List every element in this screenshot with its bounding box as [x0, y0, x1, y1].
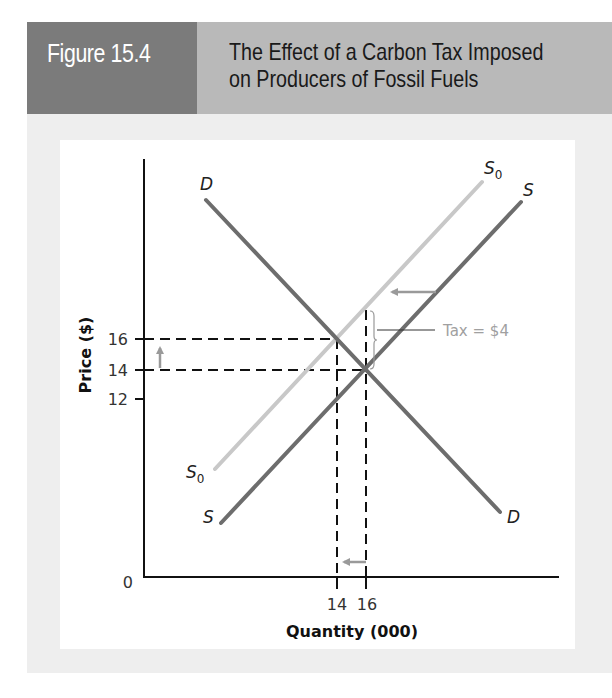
supply-demand-chart: Tax = $4 D D S S S0 S0 16 14 12 0 14 16 …	[0, 0, 612, 698]
y-axis-title: Price ($)	[76, 317, 95, 394]
y-tick-label-16: 16	[108, 330, 128, 349]
s0-label-top: S0	[484, 158, 502, 182]
demand-curve	[206, 200, 500, 512]
s0-label-bottom: S0	[186, 462, 204, 486]
demand-label-top: D	[200, 174, 213, 194]
origin-label: 0	[123, 573, 133, 592]
y-tick-label-12: 12	[108, 390, 128, 409]
x-tick-label-14: 14	[327, 595, 347, 614]
x-tick-label-16: 16	[357, 595, 377, 614]
x-axis-title: Quantity (000)	[286, 622, 418, 641]
demand-label-bottom: D	[507, 507, 520, 527]
y-tick-label-14: 14	[108, 361, 128, 380]
tax-label: Tax = $4	[442, 322, 509, 340]
supply-curve-s	[221, 202, 521, 523]
supply-curve-s0	[215, 182, 482, 469]
supply-label-bottom: S	[203, 507, 214, 527]
supply-label-top: S	[523, 180, 534, 200]
